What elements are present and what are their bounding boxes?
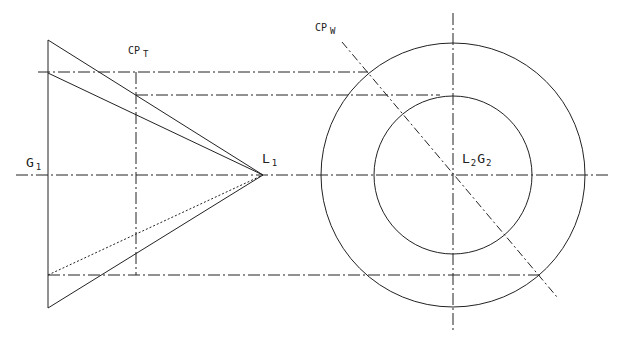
label-cpt: CPT [128,45,149,59]
cone-lower-inner-dotted [48,175,263,275]
cone-upper-inner [48,73,263,175]
label-l2g2: L2G2 [462,151,492,168]
label-cpw: CPW [315,22,336,36]
label-l1: L1 [262,151,277,168]
cone-upper-outer [48,40,263,175]
diagram-canvas: G1 L1 CPT CPW L2G2 [0,0,618,343]
cone-lower-outer [48,175,263,308]
label-g1: G1 [26,155,41,172]
